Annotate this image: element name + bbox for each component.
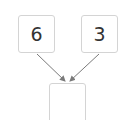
left-arrow [37, 54, 65, 81]
arrows [0, 0, 126, 120]
right-arrow [70, 54, 99, 81]
